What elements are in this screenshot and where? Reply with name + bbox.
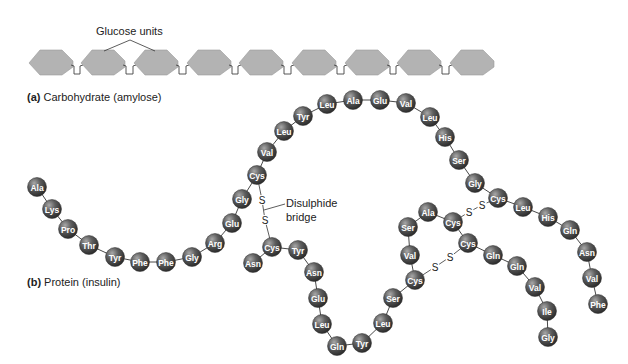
amino-acid-bead-ser: Ser: [384, 289, 403, 308]
svg-text:Leu: Leu: [314, 320, 329, 330]
svg-text:Val: Val: [261, 148, 273, 158]
amino-acid-bead-val: Val: [258, 143, 277, 162]
svg-text:His: His: [438, 133, 452, 143]
svg-text:Ser: Ser: [386, 294, 400, 304]
svg-text:Gln: Gln: [486, 251, 500, 261]
amino-acid-bead-gly: Gly: [539, 328, 558, 347]
amino-acid-bead-gly: Gly: [233, 190, 252, 209]
amino-acid-bead-lys: Lys: [43, 200, 62, 219]
amino-acid-bead-val: Val: [401, 246, 420, 265]
svg-text:Cys: Cys: [407, 276, 423, 286]
amino-acid-bead-asn: Asn: [578, 243, 597, 262]
amino-acid-bead-gly: Gly: [183, 248, 202, 267]
amino-acid-bead-gln: Gln: [484, 246, 503, 265]
amino-acid-bead-val: Val: [583, 269, 602, 288]
svg-text:Cys: Cys: [445, 218, 461, 228]
svg-text:Tyr: Tyr: [109, 253, 122, 263]
svg-text:Tyr: Tyr: [297, 112, 310, 122]
glucose-unit-hexagon: [397, 50, 441, 75]
glucose-unit-hexagon: [292, 50, 336, 75]
svg-text:Ala: Ala: [346, 96, 360, 106]
svg-text:Gly: Gly: [185, 253, 199, 263]
amino-acid-bead-asn: Asn: [305, 263, 324, 282]
svg-text:Pro: Pro: [61, 225, 75, 235]
sulfur-atom-label: S: [259, 195, 266, 206]
svg-text:Tyr: Tyr: [292, 246, 305, 256]
amino-acid-bead-his: His: [436, 128, 455, 147]
svg-text:Gly: Gly: [468, 179, 482, 189]
amino-acid-bead-phe: Phe: [589, 295, 608, 314]
amino-acid-bead-thr: Thr: [80, 236, 99, 255]
amino-acid-bead-ala: Ala: [419, 203, 438, 222]
svg-text:Cys: Cys: [249, 171, 265, 181]
amino-acid-bead-ala: Ala: [28, 178, 47, 197]
svg-text:Leu: Leu: [515, 203, 530, 213]
panel-a-caption: (a) Carbohydrate (amylose): [27, 91, 162, 103]
svg-text:Ala: Ala: [421, 208, 435, 218]
amino-acid-bead-leu: Leu: [421, 108, 440, 127]
amino-acid-bead-tyr: Tyr: [289, 241, 308, 260]
svg-text:Gly: Gly: [235, 195, 249, 205]
amino-acid-bead-cys: Cys: [444, 213, 463, 232]
glucose-units-label: Glucose units: [96, 24, 163, 38]
disulphide-bridge: SS: [259, 184, 270, 238]
panel-a-title: Carbohydrate (amylose): [44, 91, 162, 103]
svg-text:Cys: Cys: [264, 243, 280, 253]
amino-acid-bead-his: His: [539, 208, 558, 227]
panel-b-title: Protein (insulin): [44, 276, 120, 288]
glucose-units-leader-lines: [104, 40, 155, 51]
amino-acid-bead-tyr: Tyr: [106, 248, 125, 267]
svg-text:Val: Val: [400, 99, 412, 109]
glucose-unit-hexagon: [345, 50, 389, 75]
disulphide-bridge-label: Disulphide bridge: [286, 196, 337, 224]
panel-b-letter: (b): [27, 276, 41, 288]
amino-acid-bead-glu: Glu: [223, 214, 242, 233]
svg-text:Gln: Gln: [510, 262, 524, 272]
svg-text:Val: Val: [404, 251, 416, 261]
disulphide-bridge: SS: [461, 200, 490, 218]
amino-acid-bead-val: Val: [526, 278, 545, 297]
amino-acid-bead-arg: Arg: [206, 234, 225, 253]
amino-acid-bead-gln: Gln: [328, 337, 347, 356]
svg-text:Glu: Glu: [225, 219, 239, 229]
svg-text:Asn: Asn: [245, 259, 261, 269]
sulfur-atom-label: S: [466, 207, 473, 218]
glucose-unit-hexagon: [81, 50, 125, 75]
amino-acid-bead-leu: Leu: [318, 95, 337, 114]
sulfur-atom-label: S: [262, 215, 269, 226]
svg-text:Thr: Thr: [82, 241, 96, 251]
svg-text:Phe: Phe: [158, 258, 174, 268]
glucose-unit-hexagon: [29, 50, 73, 75]
svg-text:Tyr: Tyr: [356, 339, 369, 349]
amino-acid-bead-leu: Leu: [275, 122, 294, 141]
svg-text:Leu: Leu: [319, 100, 334, 110]
amylose-chain: [29, 50, 494, 75]
glucose-unit-hexagon: [450, 50, 494, 75]
amino-acid-bead-phe: Phe: [157, 253, 176, 272]
svg-text:Phe: Phe: [590, 300, 606, 310]
amino-acid-bead-tyr: Tyr: [294, 107, 313, 126]
amino-acid-bead-cys: Cys: [248, 166, 267, 185]
amino-acid-bead-glu: Glu: [309, 289, 328, 308]
amino-acid-bead-leu: Leu: [514, 198, 533, 217]
amino-acid-bead-gln: Gln: [561, 221, 580, 240]
svg-text:Val: Val: [586, 274, 598, 284]
figure-canvas: SSSSSS AlaLysProThrTyrPhePheGlyArgGluGly…: [0, 0, 628, 364]
amino-acid-bead-asn: Asn: [244, 254, 263, 273]
svg-text:Glu: Glu: [373, 96, 387, 106]
svg-text:Leu: Leu: [276, 127, 291, 137]
svg-text:Asn: Asn: [306, 268, 322, 278]
svg-text:Gln: Gln: [563, 226, 577, 236]
amino-acid-bead-ser: Ser: [399, 218, 418, 237]
amino-acid-bead-ser: Ser: [450, 151, 469, 170]
glucose-unit-hexagon: [239, 50, 283, 75]
svg-text:Ile: Ile: [542, 307, 552, 317]
panel-a-letter: (a): [27, 91, 40, 103]
svg-text:Gln: Gln: [330, 342, 344, 352]
amino-acid-bead-leu: Leu: [374, 314, 393, 333]
amino-acid-bead-gln: Gln: [508, 257, 527, 276]
svg-text:Leu: Leu: [375, 319, 390, 329]
amino-acid-bead-leu: Leu: [313, 315, 332, 334]
disulphide-bridge: SS: [423, 249, 461, 276]
glucose-unit-hexagon: [187, 50, 231, 75]
